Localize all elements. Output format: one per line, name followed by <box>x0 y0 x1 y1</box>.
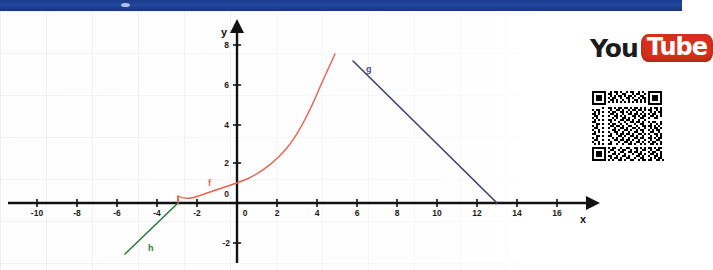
x-tick-label: -2 <box>193 208 201 218</box>
series-h-label: h <box>148 243 154 253</box>
youtube-logo-tube-text: Tube <box>647 33 707 61</box>
x-tick-label: 4 <box>315 208 320 218</box>
x-tick-label: -8 <box>73 208 81 218</box>
y-axis-label: y <box>221 26 228 38</box>
y-tick-label: 2 <box>224 158 229 168</box>
y-axis: 8 6 4 2 0 -2 y <box>221 26 241 263</box>
x-axis: -10 -8 -6 -4 -2 0 2 4 6 8 10 12 14 16 x <box>8 199 588 225</box>
series-g-label: g <box>366 64 372 74</box>
x-tick-label: 8 <box>395 208 400 218</box>
x-tick-label: 6 <box>355 208 360 218</box>
title-bar-highlight <box>121 3 130 7</box>
youtube-logo-you-text: You <box>590 36 638 61</box>
qr-code-icon <box>590 84 664 168</box>
series-f-label: f <box>208 178 212 188</box>
x-tick-label: 12 <box>472 208 482 218</box>
window-title-bar <box>0 0 682 11</box>
y-tick-label: 8 <box>224 40 229 50</box>
x-tick-label: 10 <box>432 208 442 218</box>
y-tick-label: -2 <box>222 238 230 248</box>
x-tick-label: 16 <box>552 208 562 218</box>
y-tick-label: 0 <box>224 189 229 199</box>
coordinate-plane-chart: -10 -8 -6 -4 -2 0 2 4 6 8 10 12 14 16 x <box>0 11 600 270</box>
youtube-logo-tube-box: Tube <box>641 34 713 62</box>
series-h-line: h <box>125 203 178 254</box>
y-tick-label: 6 <box>224 80 229 90</box>
y-tick-label: 4 <box>224 120 229 130</box>
series-f-curve: f <box>178 54 335 204</box>
x-tick-label: 0 <box>243 208 248 218</box>
series-g-line: g <box>353 61 497 203</box>
x-tick-label: 14 <box>512 208 522 218</box>
youtube-logo: You Tube <box>590 33 678 63</box>
x-tick-label: 2 <box>275 208 280 218</box>
x-axis-label: x <box>580 213 587 225</box>
x-tick-label: -4 <box>153 208 161 218</box>
x-tick-label: -6 <box>113 208 121 218</box>
x-tick-label: -10 <box>31 208 44 218</box>
